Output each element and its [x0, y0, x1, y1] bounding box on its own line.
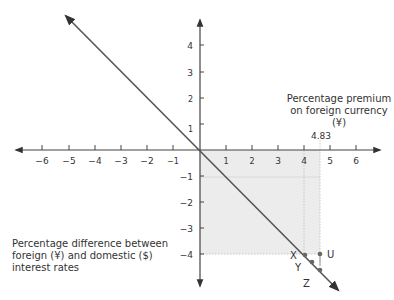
y-tick-label: 4 [187, 41, 193, 51]
y-tick-label: −4 [180, 250, 194, 260]
y-tick-label: 1 [188, 125, 193, 134]
x-tick-label: 2 [249, 157, 254, 166]
marked-value-label: 4.83 [311, 131, 331, 141]
x-tick-label: 5 [327, 156, 333, 166]
y-tick-label: 3 [187, 68, 193, 78]
x-tick-label: −3 [114, 156, 127, 166]
x-tick-label: −1 [167, 157, 179, 166]
x-tick-label: −6 [35, 156, 49, 166]
point-y [310, 260, 315, 265]
y-axis-title: Percentage difference between foreign (¥… [12, 238, 172, 274]
x-tick-label: 3 [275, 156, 281, 166]
point-x [303, 253, 308, 258]
point-z [318, 268, 323, 273]
y-tick-label: −1 [180, 172, 193, 182]
y-tick-label: 2 [188, 95, 193, 104]
x-axis-title: Percentage premium on foreign currency (… [284, 93, 394, 129]
point-z-label: Z [303, 278, 310, 289]
point-u-label: U [327, 249, 334, 260]
x-tick-label: 4 [301, 156, 307, 166]
x-tick-label: −2 [140, 156, 153, 166]
point-y-label: Y [294, 262, 302, 273]
x-tick-label: 1 [223, 157, 228, 166]
point-u [318, 252, 323, 257]
x-tick-label: −5 [62, 156, 75, 166]
y-tick-label: −3 [180, 224, 193, 234]
point-x-label: X [290, 250, 297, 261]
x-tick-label: 6 [353, 156, 359, 166]
y-tick-label: −2 [180, 198, 193, 208]
x-tick-label: −4 [88, 156, 102, 166]
